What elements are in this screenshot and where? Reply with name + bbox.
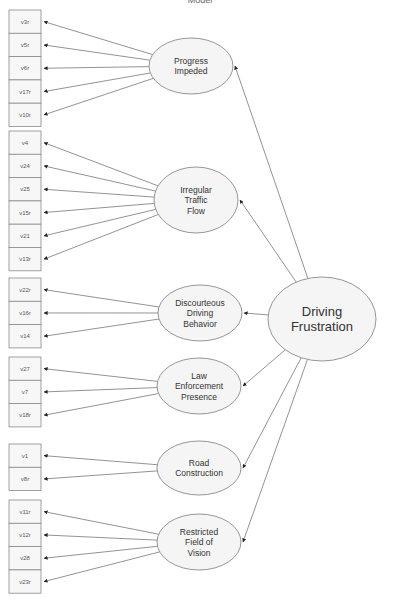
loading-arrow — [44, 512, 159, 535]
indicator-label: v21 — [20, 233, 30, 239]
loading-arrow — [44, 214, 158, 259]
factor-irregular-traffic-flow: IrregularTrafficFlow — [154, 167, 238, 233]
factor-law-enforcement-presence: LawEnforcementPresence — [157, 358, 241, 414]
indicator-label: v7 — [22, 389, 29, 395]
structural-arrow — [243, 359, 307, 542]
factor-driving-frustration: DrivingFrustration — [268, 277, 376, 361]
structural-arrow — [244, 313, 268, 315]
indicator-v6r: v6r — [9, 57, 41, 80]
main-factor-label: Frustration — [291, 319, 353, 334]
indicator-v28: v28 — [9, 547, 41, 570]
indicator-label: v24 — [20, 163, 30, 169]
indicator-label: v27 — [20, 366, 30, 372]
indicator-v10r: v10r — [9, 103, 41, 126]
factor-label: Driving — [187, 308, 214, 318]
loading-arrow — [44, 471, 157, 479]
loading-arrow — [44, 189, 154, 197]
loading-arrow — [44, 394, 159, 416]
structural-arrow — [240, 200, 296, 282]
factor-progress-impeded: ProgressImpeded — [149, 38, 233, 94]
indicator-label: v5r — [21, 42, 29, 48]
factor-label: Behavior — [183, 319, 217, 329]
nodes: v3rv5rv6rv17rv10rProgressImpededv4v24v25… — [9, 10, 376, 593]
main-factor-label: Driving — [302, 304, 342, 319]
indicator-label: v14 — [20, 333, 30, 339]
indicator-v3r: v3r — [9, 10, 41, 33]
indicator-label: v15r — [19, 210, 31, 216]
diagram-title: Model — [188, 0, 213, 5]
factor-label: Road — [189, 458, 210, 468]
factor-label: Law — [191, 371, 207, 381]
indicator-label: v22r — [19, 287, 31, 293]
indicator-v11r: v11r — [9, 500, 41, 523]
factor-label: Traffic — [184, 195, 208, 205]
indicator-label: v23r — [19, 579, 31, 585]
indicator-label: v4 — [22, 140, 29, 146]
factor-label: Enforcement — [175, 381, 224, 391]
loading-arrow — [44, 67, 149, 69]
indicator-label: v13r — [19, 256, 31, 262]
factor-label: Flow — [187, 206, 206, 216]
loading-arrow — [44, 319, 159, 336]
loading-arrow — [44, 369, 158, 382]
indicator-v18r: v18r — [9, 404, 41, 427]
loading-arrow — [44, 290, 159, 307]
indicator-v1: v1 — [9, 444, 41, 467]
factor-label: Restricted — [180, 527, 219, 537]
factor-label: Progress — [174, 56, 208, 66]
indicator-v25: v25 — [9, 178, 41, 201]
indicator-v13r: v13r — [9, 248, 41, 271]
indicator-label: v1 — [22, 453, 29, 459]
factor-label: Discourteous — [175, 298, 225, 308]
indicator-label: v16r — [19, 310, 31, 316]
loading-arrow — [44, 209, 156, 235]
loading-arrow — [44, 78, 153, 114]
structural-arrow — [243, 358, 301, 468]
structural-arrow — [243, 350, 285, 386]
loading-arrow — [44, 388, 157, 392]
factor-label: Field of — [185, 537, 214, 547]
sem-diagram: Model v3rv5rv6rv17rv10rProgressImpededv4… — [0, 0, 393, 605]
factor-label: Impeded — [174, 66, 207, 76]
factor-label: Construction — [175, 468, 223, 478]
factor-restricted-field-of-vision: RestrictedField ofVision — [157, 514, 241, 570]
indicator-v8r: v8r — [9, 467, 41, 490]
indicator-label: v6r — [21, 65, 29, 71]
indicator-v27: v27 — [9, 357, 41, 380]
indicator-v4: v4 — [9, 131, 41, 154]
factor-label: Vision — [188, 548, 211, 558]
indicator-v16r: v16r — [9, 301, 41, 324]
loading-arrow — [44, 535, 157, 540]
indicator-v5r: v5r — [9, 33, 41, 56]
indicator-v21: v21 — [9, 224, 41, 247]
factor-label: Presence — [181, 392, 217, 402]
indicator-v7: v7 — [9, 380, 41, 403]
indicator-label: v3r — [21, 19, 29, 25]
loading-arrow — [44, 203, 154, 212]
indicator-label: v18r — [19, 412, 31, 418]
indicator-v14: v14 — [9, 325, 41, 348]
indicator-v12r: v12r — [9, 523, 41, 546]
indicator-v22r: v22r — [9, 278, 41, 301]
indicator-label: v10r — [19, 112, 31, 118]
factor-road-construction: RoadConstruction — [157, 441, 241, 495]
loading-arrow — [44, 45, 150, 60]
loading-arrow — [44, 143, 158, 186]
indicator-v15r: v15r — [9, 201, 41, 224]
indicator-label: v17r — [19, 89, 31, 95]
indicator-label: v11r — [19, 509, 30, 515]
loading-arrow — [44, 456, 157, 465]
indicator-label: v28 — [20, 555, 30, 561]
indicator-label: v25 — [20, 186, 30, 192]
factor-label: Irregular — [180, 185, 212, 195]
loading-arrow — [44, 22, 153, 55]
indicator-v17r: v17r — [9, 80, 41, 103]
indicator-v23r: v23r — [9, 570, 41, 593]
indicator-v24: v24 — [9, 154, 41, 177]
indicator-label: v8r — [21, 476, 29, 482]
loading-arrow — [44, 73, 150, 92]
indicator-label: v12r — [19, 532, 31, 538]
factor-discourteous-driving-behavior: DiscourteousDrivingBehavior — [158, 285, 242, 341]
